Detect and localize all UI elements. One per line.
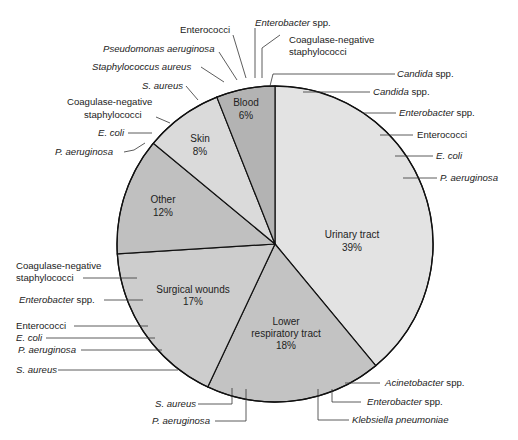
slice-label-other-name: Other — [150, 194, 176, 205]
annot-skin-e-coli: E. coli — [98, 127, 125, 138]
slice-label-blood-name: Blood — [233, 97, 259, 108]
annot-skin-cons-1: Coagulase-negative — [67, 96, 152, 107]
slice-label-respiratory-pct: 18% — [276, 340, 296, 351]
slice-label-skin-name: Skin — [190, 133, 209, 144]
annot-resp-acinetobacter: Acinetobacter spp. — [384, 377, 464, 388]
annot-surgical-s-aureus: S. aureus — [16, 364, 57, 375]
annot-blood-staph-aureus: Staphylococcus aureus — [92, 61, 191, 72]
annot-resp-s-aureus: S. aureus — [155, 398, 196, 409]
annot-surgical-e-coli: E. coli — [16, 332, 43, 343]
annot-urinary-e-coli: E. coli — [436, 150, 463, 161]
annot-resp-enterobacter: Enterobacter spp. — [367, 396, 443, 407]
annot-skin-s-aureus: S. aureus — [142, 80, 183, 91]
slice-label-skin-pct: 8% — [193, 146, 208, 157]
annot-resp-klebsiella: Klebsiella pneumoniae — [352, 414, 449, 425]
annot-blood-pseudomonas: Pseudomonas aeruginosa — [103, 43, 214, 54]
annot-blood-enterobacter: Enterobacter spp. — [255, 17, 331, 28]
annot-surgical-cons-2: staphylococci — [16, 272, 74, 283]
slice-label-urinary-name: Urinary tract — [325, 229, 380, 240]
annot-urinary-enterobacter: Enterobacter spp. — [399, 107, 475, 118]
annot-urinary-candida: Candida spp. — [373, 86, 430, 97]
annot-blood-candida: Candida spp. — [397, 68, 454, 79]
annot-surgical-cons-1: Coagulase-negative — [16, 260, 101, 271]
slice-label-respiratory-line1: Lower — [272, 316, 300, 327]
annot-blood-cons-2: staphylococci — [289, 46, 347, 57]
slice-label-blood-pct: 6% — [239, 110, 254, 121]
annot-resp-p-aeruginosa: P. aeruginosa — [152, 415, 210, 426]
pie-slices — [117, 86, 433, 402]
annot-blood-enterococci: Enterococci — [180, 24, 230, 35]
pie-chart: Urinary tract 39% Lower respiratory trac… — [0, 0, 518, 440]
annot-surgical-enterobacter: Enterobacter spp. — [19, 294, 95, 305]
annot-surgical-p-aeruginosa: P. aeruginosa — [18, 344, 76, 355]
annot-urinary-p-aeruginosa: P. aeruginosa — [440, 172, 498, 183]
slice-label-other-pct: 12% — [153, 207, 173, 218]
annot-urinary-enterococci: Enterococci — [417, 129, 467, 140]
slice-label-urinary-pct: 39% — [342, 242, 362, 253]
annot-skin-cons-2: staphylococci — [84, 109, 142, 120]
annot-blood-cons-1: Coagulase-negative — [289, 34, 374, 45]
slice-label-surgical-name: Surgical wounds — [156, 284, 229, 295]
slice-label-surgical-pct: 17% — [183, 296, 203, 307]
slice-label-respiratory-line2: respiratory tract — [251, 328, 321, 339]
annot-skin-p-aeruginosa: P. aeruginosa — [55, 146, 113, 157]
annot-surgical-enterococci: Enterococci — [16, 320, 66, 331]
